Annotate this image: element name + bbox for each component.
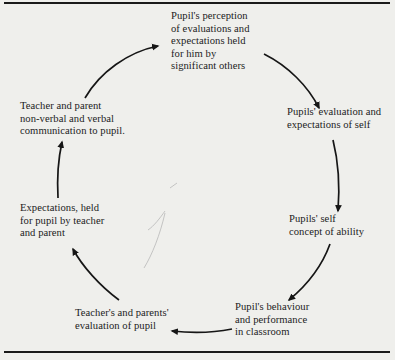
node-text-line: evaluation of pupil	[75, 320, 169, 333]
node-text-line: in classroom	[235, 326, 309, 339]
node-text-line: expectations held	[171, 35, 250, 48]
arrow-teacher-evaluation-to-expectations-icon	[73, 249, 119, 300]
node-text-line: Pupils' self	[289, 213, 364, 226]
node-text-line: Teacher and parent	[20, 100, 125, 113]
node-text-line: communication to pupil.	[20, 125, 125, 138]
node-communication: Teacher and parent non-verbal and verbal…	[20, 100, 125, 138]
node-expectations: Expectations, held for pupil by teacher …	[20, 202, 104, 240]
node-text-line: for him by	[171, 48, 250, 61]
node-pupil-self-concept: Pupils' self concept of ability	[289, 213, 364, 238]
node-text-line: Pupils' evaluation and	[287, 106, 381, 119]
node-text-line: concept of ability	[289, 226, 364, 239]
arrow-behaviour-to-teacher-evaluation-icon	[172, 329, 232, 332]
node-text-line: Pupil's perception	[171, 10, 250, 23]
node-text-line: non-verbal and verbal	[20, 113, 125, 126]
node-text-line: significant others	[171, 60, 250, 73]
node-pupil-self-evaluation: Pupils' evaluation and expectations of s…	[287, 106, 381, 131]
node-text-line: for pupil by teacher	[20, 215, 104, 228]
node-text-line: and performance	[235, 314, 309, 327]
bottom-rule	[4, 351, 390, 353]
arrow-self-evaluation-to-self-concept-icon	[333, 140, 339, 211]
arrow-perception-to-self-evaluation-icon	[264, 54, 319, 108]
arrow-self-concept-to-behaviour-icon	[289, 244, 330, 300]
node-text-line: Pupil's behaviour	[235, 301, 309, 314]
node-teacher-parent-evaluation: Teacher's and parents' evaluation of pup…	[75, 307, 169, 332]
node-pupil-perception: Pupil's perception of evaluations and ex…	[171, 10, 250, 73]
node-text-line: expectations of self	[287, 119, 381, 132]
arrow-expectations-to-communication-icon	[58, 142, 62, 198]
node-text-line: Teacher's and parents'	[75, 307, 169, 320]
node-text-line: and parent	[20, 227, 104, 240]
pencil-mark-icon	[144, 183, 177, 268]
node-text-line: Expectations, held	[20, 202, 104, 215]
node-pupil-behaviour: Pupil's behaviour and performance in cla…	[235, 301, 309, 339]
arrow-communication-to-perception-icon	[85, 46, 158, 98]
node-text-line: of evaluations and	[171, 23, 250, 36]
